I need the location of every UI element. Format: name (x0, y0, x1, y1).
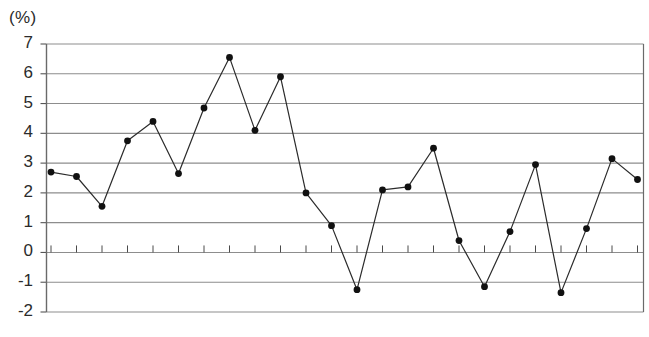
data-point-marker (456, 237, 463, 244)
data-point-marker (532, 161, 539, 168)
data-point-marker (405, 184, 412, 191)
data-point-marker (175, 170, 182, 177)
data-point-marker (99, 203, 106, 210)
data-point-marker (583, 225, 590, 232)
data-point-marker (507, 228, 514, 235)
data-point-marker (226, 54, 233, 61)
data-point-marker (150, 118, 157, 125)
data-point-marker (277, 73, 284, 80)
data-point-marker (73, 173, 80, 180)
series-polyline (51, 57, 638, 292)
y-axis-tick-label: 5 (5, 93, 33, 113)
data-point-markers (48, 54, 641, 296)
data-series-line (51, 57, 638, 292)
y-axis-tick-label: -2 (5, 301, 33, 321)
data-point-marker (430, 145, 437, 152)
data-point-marker (252, 127, 259, 134)
gridlines (47, 44, 644, 312)
data-point-marker (124, 137, 131, 144)
y-axis-tick-label: 3 (5, 152, 33, 172)
y-axis-tick-label: -1 (5, 271, 33, 291)
data-point-marker (328, 222, 335, 229)
y-axis-tick-label: 2 (5, 182, 33, 202)
y-axis-tick-label: 7 (5, 33, 33, 53)
y-axis-tick-label: 0 (5, 241, 33, 261)
data-point-marker (481, 283, 488, 290)
data-point-marker (303, 189, 310, 196)
data-point-marker (558, 289, 565, 296)
data-point-marker (201, 105, 208, 112)
data-point-marker (354, 286, 361, 293)
y-axis-tick-label: 1 (5, 212, 33, 232)
data-point-marker (634, 176, 641, 183)
data-point-marker (609, 155, 616, 162)
axis-lines (41, 44, 644, 312)
x-axis-tick-marks (51, 245, 638, 252)
data-point-marker (48, 169, 55, 176)
line-chart: (%) 76543210-1-2 (0, 0, 649, 337)
data-point-marker (379, 187, 386, 194)
chart-plot-area (0, 0, 649, 337)
y-axis-tick-label: 4 (5, 122, 33, 142)
y-axis-tick-label: 6 (5, 63, 33, 83)
